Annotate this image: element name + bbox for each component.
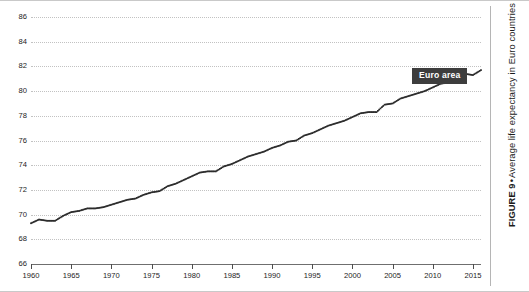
series-markers-0 xyxy=(30,69,482,224)
y-tick-label-74: 74 xyxy=(5,161,27,169)
y-tick-label-86: 86 xyxy=(5,13,27,21)
x-axis-line xyxy=(31,264,481,265)
x-tick-label-1975: 1975 xyxy=(132,272,172,280)
y-tick-label-66: 66 xyxy=(5,260,27,268)
x-tick-1995 xyxy=(312,264,313,269)
x-tick-label-2015: 2015 xyxy=(453,272,493,280)
x-tick-1970 xyxy=(111,264,112,269)
x-tick-label-1990: 1990 xyxy=(252,272,292,280)
x-tick-2015 xyxy=(473,264,474,269)
y-axis-tick-labels: 6668707274767880828486 xyxy=(0,17,27,264)
x-tick-label-1970: 1970 xyxy=(91,272,131,280)
figure-caption: FIGURE 9•Average life expectancy in Euro… xyxy=(495,0,529,292)
y-tick-label-68: 68 xyxy=(5,235,27,243)
x-tick-label-1960: 1960 xyxy=(11,272,51,280)
caption-figure-number: FIGURE 9 xyxy=(507,183,517,227)
figure-screenshot: 6668707274767880828486 19601965197019751… xyxy=(0,0,529,292)
x-tick-label-1980: 1980 xyxy=(172,272,212,280)
x-tick-1980 xyxy=(192,264,193,269)
x-tick-label-1995: 1995 xyxy=(292,272,332,280)
y-tick-label-84: 84 xyxy=(5,38,27,46)
chart-figure-region: 6668707274767880828486 19601965197019751… xyxy=(0,1,489,291)
x-tick-label-2000: 2000 xyxy=(332,272,372,280)
series-line-0 xyxy=(31,70,481,223)
x-tick-1990 xyxy=(272,264,273,269)
y-tick-label-70: 70 xyxy=(5,211,27,219)
x-tick-1975 xyxy=(152,264,153,269)
x-tick-label-2005: 2005 xyxy=(373,272,413,280)
x-tick-1985 xyxy=(232,264,233,269)
caption-bullet-icon: • xyxy=(507,178,517,183)
life-expectancy-line-series xyxy=(31,17,481,264)
x-tick-1965 xyxy=(71,264,72,269)
x-tick-2005 xyxy=(393,264,394,269)
x-tick-label-1965: 1965 xyxy=(51,272,91,280)
x-tick-label-2010: 2010 xyxy=(413,272,453,280)
series-callout-euro-area: Euro area xyxy=(412,68,467,84)
caption-divider xyxy=(490,6,491,286)
y-tick-label-80: 80 xyxy=(5,87,27,95)
y-tick-label-72: 72 xyxy=(5,186,27,194)
x-tick-2000 xyxy=(352,264,353,269)
x-tick-2010 xyxy=(433,264,434,269)
caption-title: Average life expectancy in Euro countrie… xyxy=(507,3,517,178)
y-tick-label-78: 78 xyxy=(5,112,27,120)
x-tick-label-1985: 1985 xyxy=(212,272,252,280)
y-tick-label-76: 76 xyxy=(5,137,27,145)
x-tick-1960 xyxy=(31,264,32,269)
y-tick-label-82: 82 xyxy=(5,62,27,70)
